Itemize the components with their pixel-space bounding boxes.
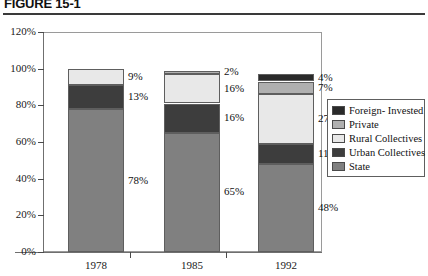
y-axis-label: 20%	[0, 209, 36, 220]
y-axis-label: 120%	[0, 26, 36, 37]
legend-item-label: State	[349, 161, 370, 172]
legend-swatch-icon	[332, 120, 345, 129]
bar-segment-value: 13%	[128, 91, 148, 102]
legend-swatch-icon	[332, 148, 345, 157]
legend-item[interactable]: Private	[332, 117, 421, 131]
legend-item[interactable]: Rural Collectives	[332, 131, 421, 145]
bar-segment-state[interactable]	[164, 133, 220, 252]
legend-item-label: Foreign- Invested	[349, 105, 423, 116]
bar-segment-value: 4%	[318, 72, 333, 83]
bar-1978[interactable]: 78%13%9%	[68, 0, 124, 276]
bar-segment-value: 7%	[318, 82, 333, 93]
bar-segment-value: 16%	[224, 83, 244, 94]
y-axis-label: 100%	[0, 63, 36, 74]
legend-item-label: Private	[349, 119, 379, 130]
y-axis-label: 60%	[0, 136, 36, 147]
bar-1985[interactable]: 65%16%16%2%	[164, 0, 220, 276]
legend-swatch-icon	[332, 106, 345, 115]
bar-segment-private[interactable]	[258, 82, 314, 95]
bar-segment-state[interactable]	[258, 164, 314, 252]
legend-item-label: Rural Collectives	[349, 133, 422, 144]
bar-segment-urban-collectives[interactable]	[68, 85, 124, 109]
bar-segment-value: 48%	[318, 202, 338, 213]
x-axis-tick	[130, 252, 131, 258]
bar-segment-value: 78%	[128, 175, 148, 186]
y-axis-tick	[38, 32, 44, 33]
y-axis-tick	[38, 142, 44, 143]
legend-item-label: Urban Collectives	[349, 147, 425, 158]
bar-segment-foreign-invested[interactable]	[258, 74, 314, 81]
legend-item[interactable]: Foreign- Invested	[332, 103, 421, 117]
bar-segment-value: 9%	[128, 71, 143, 82]
y-axis-label: 0%	[0, 246, 36, 257]
y-axis-tick	[38, 252, 44, 253]
bar-segment-value: 16%	[224, 112, 244, 123]
bar-segment-value: 2%	[224, 66, 239, 77]
bar-segment-private[interactable]	[164, 71, 220, 75]
y-axis-tick	[38, 69, 44, 70]
bar-segment-rural-collectives[interactable]	[258, 94, 314, 144]
bar-segment-value: 65%	[224, 186, 244, 197]
legend-item[interactable]: Urban Collectives	[332, 145, 421, 159]
bar-segment-urban-collectives[interactable]	[164, 104, 220, 133]
y-axis-tick	[38, 179, 44, 180]
bar-segment-state[interactable]	[68, 109, 124, 252]
y-axis-label: 40%	[0, 173, 36, 184]
legend-swatch-icon	[332, 162, 345, 171]
bar-segment-rural-collectives[interactable]	[68, 69, 124, 86]
y-axis-tick	[38, 105, 44, 106]
legend-swatch-icon	[332, 134, 345, 143]
y-axis-label: 80%	[0, 99, 36, 110]
bar-segment-urban-collectives[interactable]	[258, 144, 314, 164]
legend-item[interactable]: State	[332, 159, 421, 173]
y-axis-tick	[38, 215, 44, 216]
chart-legend: Foreign- InvestedPrivateRural Collective…	[327, 99, 425, 177]
x-axis-tick	[226, 252, 227, 258]
bar-1992[interactable]: 48%11%27%7%4%	[258, 0, 314, 276]
bar-segment-rural-collectives[interactable]	[164, 74, 220, 103]
